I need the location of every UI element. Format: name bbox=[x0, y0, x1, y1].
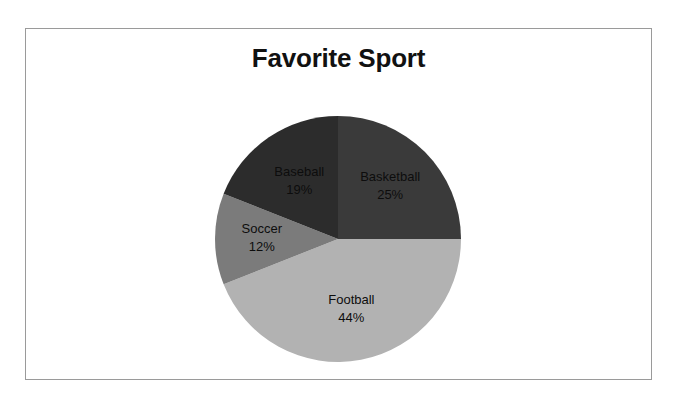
chart-frame: Favorite Sport Basketball25%Football44%S… bbox=[25, 28, 652, 380]
pie-slice-label-football: Football bbox=[328, 292, 374, 307]
pie-slice-value-football: 44% bbox=[338, 310, 364, 325]
pie-slice-label-basketball: Basketball bbox=[360, 169, 420, 184]
pie-slice-label-soccer: Soccer bbox=[242, 221, 283, 236]
pie-slice-value-basketball: 25% bbox=[377, 187, 403, 202]
chart-title: Favorite Sport bbox=[26, 43, 651, 74]
pie-chart: Basketball25%Football44%Soccer12%Basebal… bbox=[213, 114, 463, 364]
pie-slice-value-soccer: 12% bbox=[249, 239, 275, 254]
pie-slice-value-baseball: 19% bbox=[286, 182, 312, 197]
pie-chart-svg: Basketball25%Football44%Soccer12%Basebal… bbox=[213, 114, 463, 364]
pie-slice-label-baseball: Baseball bbox=[274, 164, 324, 179]
